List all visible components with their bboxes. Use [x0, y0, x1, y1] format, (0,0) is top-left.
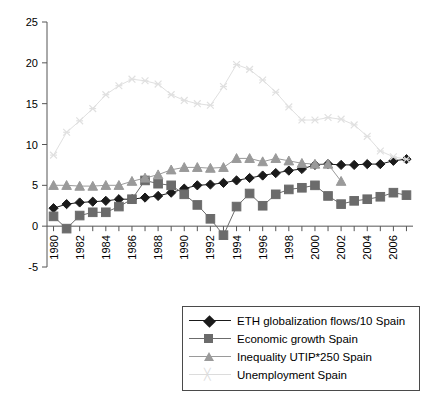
x-axis-tick-label: 2000: [309, 235, 321, 259]
x-axis-tick-label: 1998: [283, 235, 295, 259]
y-axis-tick-label: -5: [28, 261, 38, 273]
series-marker-3: [50, 152, 57, 159]
series-marker-3: [63, 129, 70, 136]
series-marker-1: [324, 192, 333, 201]
series-marker-1: [350, 197, 359, 206]
series-marker-0: [376, 160, 385, 169]
legend-item-label: Unemployment Spain: [233, 369, 347, 381]
series-marker-0: [154, 191, 163, 200]
series-marker-1: [128, 195, 137, 204]
series-marker-1: [193, 201, 202, 210]
x-axis-tick-label: 2006: [387, 235, 399, 259]
series-marker-0: [193, 181, 202, 190]
series-marker-3: [325, 114, 332, 121]
series-marker-0: [232, 176, 241, 185]
legend-item[interactable]: Inequality UTIP*250 Spain: [187, 348, 415, 366]
x-axis-tick-label: 1992: [204, 235, 216, 259]
series-marker-2: [336, 176, 346, 185]
series-marker-0: [258, 171, 267, 180]
x-axis-tick-label: 2002: [335, 235, 347, 259]
y-axis-tick-label: 25: [26, 16, 38, 28]
series-marker-0: [363, 160, 372, 169]
series-marker-1: [389, 188, 398, 197]
legend-item-label: Economic growth Spain: [233, 333, 358, 345]
series-marker-0: [101, 196, 110, 205]
series-marker-3: [155, 81, 162, 88]
legend-item-label: Inequality UTIP*250 Spain: [233, 351, 372, 363]
series-marker-0: [271, 168, 280, 177]
legend-marker-square-icon: [187, 330, 233, 348]
series-marker-3: [76, 117, 83, 124]
series-marker-0: [219, 178, 228, 187]
series-marker-1: [245, 189, 254, 198]
chart-container: 2520151050-51980198219841986198819901992…: [0, 0, 426, 402]
series-marker-1: [154, 179, 163, 188]
legend-marker-x-icon: ╳: [187, 366, 233, 384]
legend-item[interactable]: ETH globalization flows/10 Spain: [187, 312, 415, 330]
series-marker-2: [153, 170, 163, 179]
series-marker-3: [181, 97, 188, 104]
series-marker-2: [271, 154, 281, 163]
x-axis-tick-label: 1980: [48, 235, 60, 259]
series-marker-3: [115, 82, 122, 89]
y-axis-tick-label: 0: [32, 220, 38, 232]
x-axis-tick-label: 1988: [152, 235, 164, 259]
series-marker-1: [75, 211, 84, 220]
series-marker-3: [129, 76, 136, 83]
series-marker-0: [245, 173, 254, 182]
series-marker-1: [258, 201, 267, 210]
series-marker-1: [285, 185, 294, 194]
series-marker-2: [219, 163, 229, 172]
x-axis-tick-label: 1994: [231, 235, 243, 259]
series-marker-0: [49, 204, 58, 213]
series-marker-0: [140, 193, 149, 202]
series-marker-1: [271, 190, 280, 199]
series-marker-1: [376, 192, 385, 201]
x-axis-tick-label: 2004: [361, 235, 373, 259]
series-marker-1: [167, 181, 176, 190]
series-marker-3: [312, 117, 319, 124]
series-marker-3: [142, 77, 149, 84]
series-marker-3: [364, 133, 371, 140]
series-marker-3: [168, 91, 175, 98]
legend-item-label: ETH globalization flows/10 Spain: [233, 315, 405, 327]
series-marker-1: [115, 202, 124, 211]
x-axis-tick-label: 1996: [257, 235, 269, 259]
legend-marker-diamond-icon: [187, 312, 233, 330]
legend-item[interactable]: Economic growth Spain: [187, 330, 415, 348]
series-marker-0: [62, 200, 71, 209]
series-marker-3: [259, 77, 266, 84]
series-marker-3: [285, 104, 292, 111]
series-marker-1: [311, 181, 320, 190]
series-marker-3: [246, 66, 253, 73]
series-marker-3: [298, 117, 305, 124]
series-marker-0: [75, 198, 84, 207]
series-marker-3: [272, 89, 279, 96]
series-marker-3: [233, 61, 240, 68]
series-line-3: [54, 65, 407, 160]
series-marker-1: [49, 212, 58, 221]
y-axis-tick-label: 10: [26, 139, 38, 151]
series-marker-0: [88, 197, 97, 206]
series-marker-3: [338, 116, 345, 123]
x-axis-tick-label: 1982: [74, 235, 86, 259]
series-marker-1: [62, 224, 71, 233]
series-marker-1: [180, 190, 189, 199]
series-marker-1: [363, 195, 372, 204]
series-marker-3: [377, 148, 384, 155]
series-marker-0: [206, 180, 215, 189]
x-axis-tick-label: 1984: [100, 235, 112, 259]
legend-marker-triangle-icon: [187, 348, 233, 366]
series-marker-1: [337, 200, 346, 209]
series-marker-1: [402, 191, 411, 200]
legend-item[interactable]: ╳Unemployment Spain: [187, 366, 415, 384]
series-marker-0: [337, 160, 346, 169]
series-marker-1: [232, 202, 241, 211]
y-axis-tick-label: 20: [26, 57, 38, 69]
series-marker-1: [102, 208, 111, 217]
series-marker-3: [102, 91, 109, 98]
series-marker-3: [194, 100, 201, 107]
y-axis-tick-label: 15: [26, 98, 38, 110]
x-axis-tick-label: 1986: [126, 235, 138, 259]
series-marker-0: [284, 166, 293, 175]
